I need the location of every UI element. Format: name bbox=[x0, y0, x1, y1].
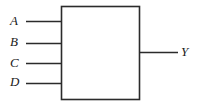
input-label-a: A bbox=[10, 14, 18, 27]
input-label-d: D bbox=[10, 75, 19, 88]
logic-block-rect bbox=[62, 7, 140, 100]
output-label-y: Y bbox=[181, 45, 188, 58]
input-label-c: C bbox=[10, 56, 19, 69]
diagram-canvas: A B C D Y bbox=[0, 0, 202, 108]
logic-diagram bbox=[0, 0, 202, 108]
input-label-b: B bbox=[10, 35, 18, 48]
